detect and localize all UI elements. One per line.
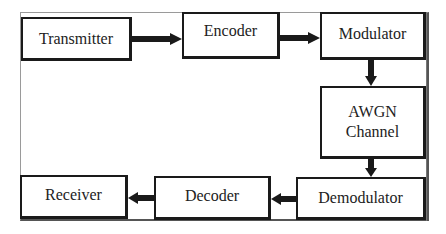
modulator-block: Modulator <box>320 12 426 60</box>
awgn-label-line1: AWGN <box>348 102 396 122</box>
arrow-transmitter-to-encoder <box>132 32 182 46</box>
arrow-decoder-to-receiver <box>128 192 154 204</box>
decoder-block: Decoder <box>154 176 271 220</box>
awgn-channel-block: AWGN Channel <box>320 86 426 159</box>
awgn-label-line2: Channel <box>346 122 399 142</box>
transmitter-block: Transmitter <box>21 17 132 61</box>
receiver-label: Receiver <box>45 185 102 205</box>
transmitter-label: Transmitter <box>39 29 113 49</box>
demodulator-label: Demodulator <box>318 188 402 208</box>
diagram-frame-inner-edge <box>426 12 427 221</box>
arrow-encoder-to-modulator <box>280 31 320 45</box>
arrow-awgn-to-demodulator <box>364 159 378 177</box>
receiver-block: Receiver <box>20 175 128 219</box>
encoder-label: Encoder <box>204 21 257 41</box>
modulator-label: Modulator <box>339 24 407 44</box>
decoder-label: Decoder <box>185 186 239 206</box>
encoder-block: Encoder <box>182 12 280 59</box>
arrow-modulator-to-awgn <box>364 60 378 86</box>
arrow-demodulator-to-decoder <box>271 193 296 205</box>
demodulator-block: Demodulator <box>296 177 426 220</box>
